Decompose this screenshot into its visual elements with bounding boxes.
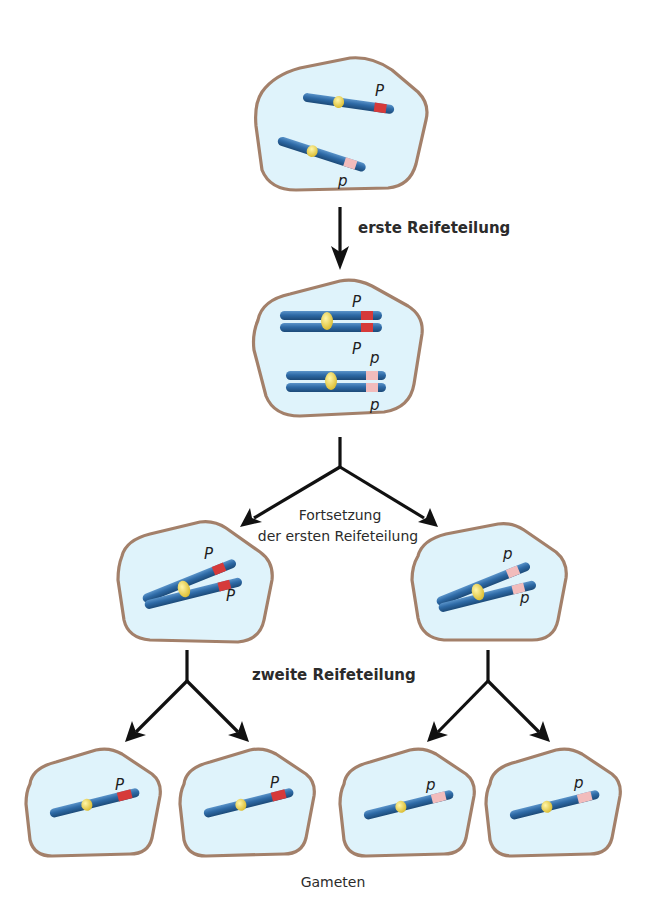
allele-label: p	[573, 774, 584, 792]
allele-label: P	[270, 774, 280, 792]
allele-label: p	[502, 545, 513, 563]
allele-label: p	[369, 396, 380, 414]
gamete-3: p	[340, 749, 474, 856]
allele-label: p	[369, 349, 380, 367]
gamete-4: p	[486, 749, 620, 856]
arrow-down	[331, 207, 349, 270]
cell-left: P P	[118, 522, 272, 642]
allele-label: P	[115, 776, 125, 794]
allele-label: P	[226, 587, 236, 605]
arrow-fork-right	[427, 650, 550, 742]
allele-label: p	[337, 172, 348, 190]
gamete-2: P	[180, 749, 314, 856]
allele-label: P	[204, 545, 214, 563]
cell-right: p p	[412, 524, 566, 640]
cell-middle: P P p p	[254, 280, 423, 416]
allele-label: p	[519, 589, 530, 607]
meiosis-diagram: P p erste Reifeteilung P P	[0, 0, 648, 921]
step-label-continuation-2: der ersten Reifeteilung	[258, 528, 418, 544]
result-label-gametes: Gameten	[301, 874, 366, 890]
allele-label: P	[375, 82, 385, 100]
cell-top: P p	[256, 58, 427, 190]
gamete-1: P	[26, 749, 160, 856]
step-label-first-division: erste Reifeteilung	[358, 219, 510, 237]
step-label-second-division: zweite Reifeteilung	[252, 666, 416, 684]
arrow-fork-left	[125, 650, 249, 742]
allele-label: P	[352, 293, 362, 311]
step-label-continuation: Fortsetzung	[299, 507, 382, 523]
allele-label: p	[425, 776, 436, 794]
allele-label: P	[352, 340, 362, 358]
